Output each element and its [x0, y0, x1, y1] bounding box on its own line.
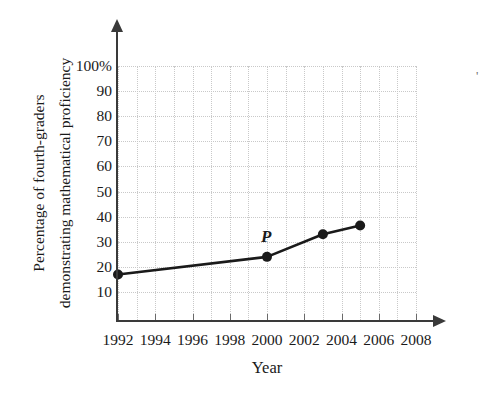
y-axis-tick-label: 10	[60, 284, 112, 300]
y-axis-line	[116, 30, 118, 322]
x-axis-arrow-icon	[433, 315, 446, 327]
data-point-marker	[318, 229, 328, 239]
y-axis-arrow-icon	[111, 19, 123, 32]
x-axis-tick-label: 2004	[321, 330, 363, 350]
x-axis-tick-label: 2006	[358, 330, 400, 350]
edge-artifact-mark: '	[476, 68, 478, 84]
y-axis-tick-label: 30	[60, 234, 112, 250]
gridline-vertical	[416, 66, 417, 320]
x-axis-tick	[155, 314, 156, 320]
x-axis-tick	[304, 314, 305, 320]
x-axis-tick-labels: 199219941996199820002002200420062008	[0, 330, 501, 354]
y-axis-tick-label: 90	[60, 83, 112, 99]
x-axis-tick-label: 2008	[395, 330, 437, 350]
data-point-marker	[355, 220, 365, 230]
y-axis-tick-label: 40	[60, 209, 112, 225]
plot-area: P	[118, 66, 416, 320]
x-axis-tick	[193, 314, 194, 320]
x-axis-line	[116, 320, 434, 322]
y-axis-tick-label: 20	[60, 259, 112, 275]
point-label-p: P	[261, 227, 271, 247]
x-axis-tick-label: 1996	[172, 330, 214, 350]
y-axis-tick-label: 70	[60, 133, 112, 149]
x-axis-tick-label: 2000	[246, 330, 288, 350]
x-axis-tick-label: 1994	[134, 330, 176, 350]
x-axis-tick-label: 1992	[97, 330, 139, 350]
x-axis-tick-label: 1998	[209, 330, 251, 350]
x-axis-tick-label: 2002	[283, 330, 325, 350]
data-point-marker	[113, 269, 123, 279]
y-axis-tick-label: 80	[60, 108, 112, 124]
y-axis-title-line-1: Percentage of fourth-graders	[26, 18, 52, 348]
x-axis-tick	[230, 314, 231, 320]
x-axis-tick	[379, 314, 380, 320]
y-axis-tick-label: 100%	[60, 58, 112, 74]
x-axis-tick	[267, 314, 268, 320]
x-axis-tick	[118, 314, 119, 320]
y-axis-tick-label: 50	[60, 184, 112, 200]
y-axis-tick-labels: 102030405060708090100%	[56, 0, 112, 355]
data-point-marker	[262, 252, 272, 262]
x-axis-title: Year	[118, 358, 416, 378]
x-axis-tick	[342, 314, 343, 320]
chart-figure: Percentage of fourth-graders demonstrati…	[0, 0, 501, 394]
data-series-line	[118, 66, 416, 320]
y-axis-tick-label: 60	[60, 158, 112, 174]
x-axis-tick	[416, 314, 417, 320]
